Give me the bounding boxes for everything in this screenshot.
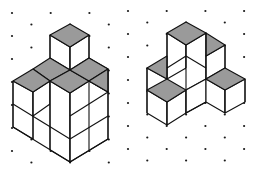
grid-dot <box>108 23 110 25</box>
grid-dot <box>243 148 245 150</box>
grid-dot <box>204 148 206 150</box>
grid-dot <box>243 125 245 127</box>
grid-dot <box>127 102 129 104</box>
grid-dot <box>50 12 52 14</box>
grid-dot <box>243 10 245 12</box>
grid-dot <box>204 10 206 12</box>
right-cube-structure <box>147 22 245 125</box>
left-cube-structure <box>13 24 108 162</box>
grid-dot <box>11 58 13 60</box>
grid-dot <box>30 46 32 48</box>
grid-dot <box>146 44 148 46</box>
grid-dot <box>127 10 129 12</box>
grid-dot <box>127 125 129 127</box>
grid-dot <box>108 161 110 163</box>
grid-dot <box>146 136 148 138</box>
grid-dot <box>11 150 13 152</box>
grid-dot <box>166 10 168 12</box>
grid-dot <box>127 79 129 81</box>
grid-dot <box>185 136 187 138</box>
grid-dot <box>127 148 129 150</box>
isometric-diagram <box>0 0 259 175</box>
grid-dot <box>166 148 168 150</box>
grid-dot <box>204 125 206 127</box>
cube-side-face <box>50 81 70 162</box>
grid-dot <box>127 33 129 35</box>
grid-dot <box>108 46 110 48</box>
grid-dot <box>224 113 226 115</box>
grid-dot <box>185 159 187 161</box>
grid-dot <box>224 159 226 161</box>
grid-dot <box>224 136 226 138</box>
grid-dot <box>11 35 13 37</box>
grid-dot <box>224 21 226 23</box>
grid-dot <box>243 56 245 58</box>
grid-dot <box>243 33 245 35</box>
grid-dot <box>30 161 32 163</box>
grid-dot <box>146 159 148 161</box>
grid-dot <box>11 12 13 14</box>
grid-dot <box>30 23 32 25</box>
grid-dot <box>88 12 90 14</box>
grid-dot <box>146 21 148 23</box>
grid-dot <box>127 56 129 58</box>
